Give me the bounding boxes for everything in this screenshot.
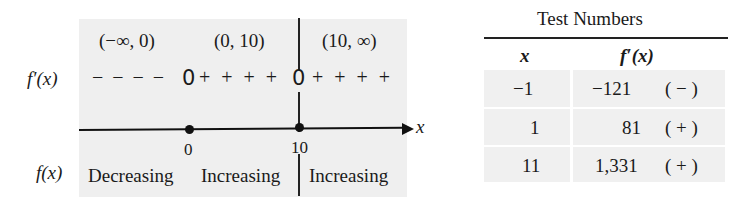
sign-zero: 0 <box>182 66 195 90</box>
cell-x: 1 <box>530 117 540 139</box>
cell-fprime: 81 <box>622 117 641 139</box>
derivative-label: f′(x) <box>27 68 58 90</box>
tick-label: 10 <box>291 138 308 158</box>
table-rule <box>484 37 728 39</box>
cell-sign: ( − ) <box>665 78 698 100</box>
row-divider <box>484 145 725 147</box>
cell-x: −1 <box>513 78 533 100</box>
interval-label: (−∞, 0) <box>99 30 155 52</box>
axis-label: x <box>416 116 424 138</box>
interval-label: (0, 10) <box>214 30 265 52</box>
cell-fprime: −121 <box>592 78 631 100</box>
cell-x: 11 <box>522 155 540 177</box>
column-header-fprime: f′(x) <box>620 45 654 67</box>
cell-sign: ( + ) <box>665 117 698 139</box>
function-label: f(x) <box>36 162 62 184</box>
sign-segment-positive: + + + + <box>312 66 393 89</box>
behavior-label: Decreasing <box>88 165 173 187</box>
interval-label: (10, ∞) <box>322 30 377 52</box>
behavior-label: Increasing <box>309 165 388 187</box>
sign-segment-negative: − − − − <box>92 66 166 89</box>
tick-label: 0 <box>184 140 193 160</box>
critical-divider-line <box>298 18 300 196</box>
arrowhead-icon <box>402 123 414 135</box>
cell-fprime: 1,331 <box>595 155 638 177</box>
cell-sign: ( + ) <box>665 155 698 177</box>
sign-zero: 0 <box>292 66 305 90</box>
behavior-label: Increasing <box>201 165 280 187</box>
column-header-x: x <box>520 45 530 67</box>
row-divider <box>484 107 725 109</box>
table-title: Test Numbers <box>537 8 643 30</box>
critical-point-dot <box>295 123 304 132</box>
critical-point-dot <box>185 125 194 134</box>
sign-segment-positive: + + + + <box>199 66 280 89</box>
